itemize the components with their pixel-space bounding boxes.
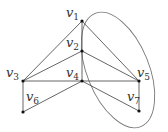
label-v2: v2 — [66, 35, 79, 52]
labels: v1 v2 v3 v4 v5 v6 v7 — [6, 5, 150, 106]
label-v6: v6 — [26, 89, 39, 106]
label-v5: v5 — [137, 65, 150, 82]
node-v6 — [21, 110, 24, 113]
label-v7: v7 — [127, 89, 140, 106]
node-v7 — [137, 109, 140, 112]
node-v3 — [21, 79, 24, 82]
label-v3: v3 — [6, 65, 19, 82]
label-v4: v4 — [66, 65, 79, 82]
node-v4 — [80, 79, 83, 82]
edge-v2-v5 — [82, 51, 139, 81]
label-v1: v1 — [66, 5, 79, 22]
node-v2 — [80, 49, 83, 52]
nodes — [21, 19, 140, 113]
node-v1 — [80, 19, 83, 22]
graph-diagram: v1 v2 v3 v4 v5 v6 v7 — [0, 0, 168, 132]
graph-svg: v1 v2 v3 v4 v5 v6 v7 — [0, 0, 168, 132]
edges — [23, 21, 139, 112]
